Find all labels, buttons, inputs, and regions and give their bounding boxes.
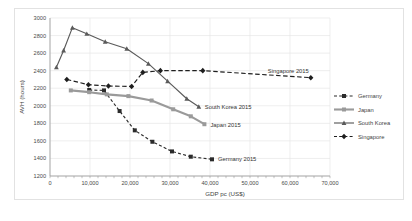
data-point-marker bbox=[105, 92, 109, 96]
series-japan bbox=[69, 88, 207, 126]
data-point-marker bbox=[150, 140, 154, 144]
data-point-marker bbox=[171, 107, 175, 111]
data-point-marker bbox=[64, 77, 69, 83]
data-point-marker bbox=[342, 94, 346, 98]
data-point-marker bbox=[189, 114, 193, 118]
x-tick-label: 40,000 bbox=[201, 180, 218, 186]
data-point-marker bbox=[133, 128, 137, 132]
y-tick-label: 1600 bbox=[34, 138, 46, 144]
data-point-marker bbox=[308, 75, 313, 81]
x-tick-label: 60,000 bbox=[281, 180, 298, 186]
data-point-marker bbox=[69, 88, 73, 92]
legend-label-germany: Germany bbox=[358, 93, 382, 99]
data-point-marker bbox=[126, 94, 130, 98]
data-label-japan-2015: Japan 2015 bbox=[210, 122, 240, 128]
legend-label-south-korea: South Korea bbox=[358, 120, 391, 126]
data-point-marker bbox=[210, 157, 214, 161]
legend-label-japan: Japan bbox=[358, 107, 374, 113]
x-tick-label: 20,000 bbox=[121, 180, 138, 186]
data-label-singapore-2015: Singapore 2015 bbox=[268, 68, 309, 74]
data-point-marker bbox=[54, 65, 59, 69]
x-tick-label: 10,000 bbox=[81, 180, 98, 186]
y-tick-label: 2000 bbox=[34, 103, 46, 109]
y-tick-label: 1800 bbox=[34, 120, 46, 126]
x-tick-label: 0 bbox=[48, 180, 51, 186]
data-point-marker bbox=[341, 134, 346, 140]
data-label-south-korea-2015: South Korea 2015 bbox=[205, 104, 252, 110]
data-point-marker bbox=[200, 68, 205, 74]
data-point-marker bbox=[118, 109, 122, 113]
data-point-marker bbox=[150, 99, 154, 103]
x-axis-title: GDP pc (US$) bbox=[205, 190, 244, 197]
data-point-marker bbox=[189, 155, 193, 159]
chart-svg: 1200140016001800200022002400260028003000… bbox=[0, 0, 412, 221]
legend-label-singapore: Singapore bbox=[358, 134, 384, 140]
legend-marker-japan bbox=[342, 108, 346, 112]
data-point-marker bbox=[202, 122, 206, 126]
y-tick-label: 1400 bbox=[34, 155, 46, 161]
y-tick-label: 1200 bbox=[34, 173, 46, 179]
legend-marker-singapore bbox=[341, 134, 346, 140]
data-point-marker bbox=[342, 108, 346, 112]
data-label-germany-2015: Germany 2015 bbox=[218, 156, 256, 162]
data-point-marker bbox=[61, 48, 66, 52]
y-tick-label: 3000 bbox=[34, 15, 46, 21]
y-tick-label: 2200 bbox=[34, 85, 46, 91]
legend-marker-germany bbox=[342, 94, 346, 98]
data-point-marker bbox=[70, 25, 75, 29]
chart-container: 1200140016001800200022002400260028003000… bbox=[0, 0, 412, 221]
series-line bbox=[71, 90, 205, 124]
y-tick-label: 2400 bbox=[34, 68, 46, 74]
x-tick-label: 30,000 bbox=[161, 180, 178, 186]
data-point-marker bbox=[87, 90, 91, 94]
y-tick-label: 2600 bbox=[34, 50, 46, 56]
data-point-marker bbox=[170, 149, 174, 153]
x-tick-label: 70,000 bbox=[321, 180, 338, 186]
y-tick-label: 2800 bbox=[34, 33, 46, 39]
data-point-marker bbox=[102, 88, 106, 92]
y-axis-title: AVH (hours) bbox=[18, 80, 25, 114]
x-tick-label: 50,000 bbox=[241, 180, 258, 186]
